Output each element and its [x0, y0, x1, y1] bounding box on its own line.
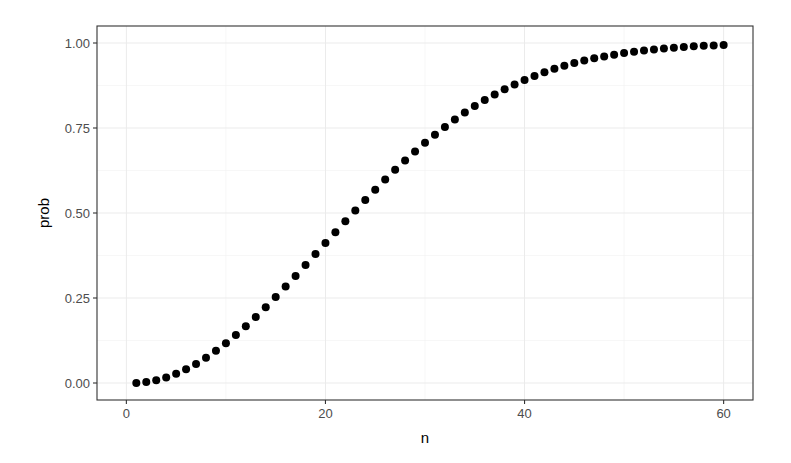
data-point	[202, 354, 210, 362]
y-axis-title: prob	[35, 198, 52, 228]
data-point	[521, 76, 529, 84]
data-point	[172, 370, 180, 378]
data-point	[222, 339, 230, 347]
data-point	[182, 365, 190, 373]
x-axis: 0204060	[123, 400, 731, 421]
x-tick-label: 60	[716, 406, 730, 421]
data-point	[242, 322, 250, 330]
data-point	[351, 207, 359, 215]
y-tick-label: 0.25	[65, 291, 90, 306]
scatter-chart: 0204060 0.000.250.500.751.00 n prob	[0, 0, 791, 463]
x-tick-label: 20	[318, 406, 332, 421]
data-point	[341, 217, 349, 225]
data-point	[371, 186, 379, 194]
data-point	[580, 57, 588, 65]
data-point	[720, 41, 728, 49]
data-point	[292, 272, 300, 280]
data-point	[381, 176, 389, 184]
data-point	[212, 347, 220, 355]
data-point	[570, 59, 578, 67]
data-point	[620, 49, 628, 57]
data-point	[670, 44, 678, 52]
data-point	[461, 109, 469, 117]
data-point	[401, 156, 409, 164]
data-point	[331, 228, 339, 236]
data-point	[441, 123, 449, 131]
y-tick-label: 0.00	[65, 376, 90, 391]
y-tick-label: 0.50	[65, 206, 90, 221]
data-point	[152, 376, 160, 384]
data-point	[610, 51, 618, 59]
data-point	[501, 85, 509, 93]
data-point	[690, 42, 698, 50]
data-point	[550, 65, 558, 73]
x-tick-label: 40	[517, 406, 531, 421]
data-point	[262, 303, 270, 311]
data-point	[590, 54, 598, 62]
data-point	[710, 41, 718, 49]
y-tick-label: 0.75	[65, 121, 90, 136]
data-point	[431, 131, 439, 139]
data-point	[132, 379, 140, 387]
data-point	[411, 147, 419, 155]
data-point	[252, 313, 260, 321]
data-point	[142, 378, 150, 386]
data-point	[321, 239, 329, 247]
data-point	[481, 96, 489, 104]
data-point	[540, 68, 548, 76]
data-point	[650, 45, 658, 53]
data-point	[530, 72, 538, 80]
data-point	[491, 90, 499, 98]
data-point	[421, 139, 429, 147]
y-tick-label: 1.00	[65, 36, 90, 51]
data-point	[302, 261, 310, 269]
data-point	[600, 52, 608, 60]
data-point	[282, 283, 290, 291]
data-point	[312, 250, 320, 258]
data-point	[232, 331, 240, 339]
data-point	[391, 166, 399, 174]
data-point	[680, 43, 688, 51]
data-point	[511, 80, 519, 88]
data-point	[471, 102, 479, 110]
data-point	[272, 293, 280, 301]
data-point	[630, 48, 638, 56]
data-point	[700, 42, 708, 50]
data-point	[640, 46, 648, 54]
x-tick-label: 0	[123, 406, 130, 421]
data-point	[560, 62, 568, 70]
y-axis: 0.000.250.500.751.00	[65, 36, 97, 391]
data-point	[361, 196, 369, 204]
data-point	[660, 44, 668, 52]
x-axis-title: n	[421, 429, 429, 446]
data-point	[192, 360, 200, 368]
data-point	[451, 116, 459, 124]
data-point	[162, 373, 170, 381]
